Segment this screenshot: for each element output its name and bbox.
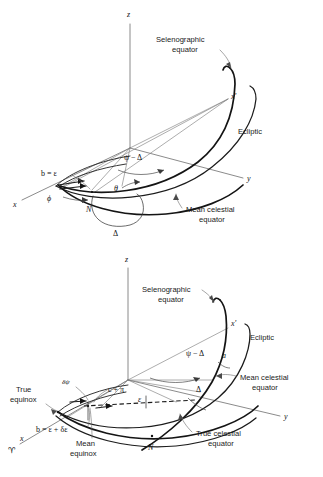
epsilon-arrowhead-bottom: [106, 403, 112, 409]
phi-label-top: ϕ: [47, 194, 51, 203]
delta-label-bottom: Δ: [196, 385, 201, 394]
x-prime-radius-bottom: [128, 328, 228, 380]
mean-celestial-equator-label-line1-bottom: Mean celestial: [240, 373, 289, 382]
psi-minus-delta-arrowhead-top: [157, 169, 164, 174]
b-epsilon-label-top: b = ε: [41, 169, 58, 178]
y-axis-label-top: y: [246, 174, 251, 183]
delta-brace-top: [92, 194, 144, 226]
aux-radius-1-top: [60, 148, 130, 188]
cone-edge-lower-top: [95, 99, 228, 192]
mean-celestial-equator-label-line2-bottom: equator: [252, 383, 278, 392]
theta-label-top: θ: [114, 184, 118, 193]
y-axis-label-bottom: y: [283, 412, 288, 421]
x-prime-radius-top: [130, 99, 228, 148]
mean-equinox-label-line2-bottom: equinox: [70, 449, 97, 458]
mean-equinox-label-line1-bottom: Mean: [76, 439, 95, 448]
selenographic-equator-label-line2-top: equator: [172, 45, 198, 54]
selenographic-equator-curve-bottom: [142, 300, 226, 450]
figure-top: z x y x': [0, 0, 323, 240]
mean-celestial-equator-label-line1-top: Mean celestial: [186, 205, 235, 214]
mean-celestial-equator-label-line2-top: equator: [199, 215, 225, 224]
psi-minus-delta-arrowhead-bottom: [193, 377, 200, 382]
b-epsilon-delta-label-bottom: b = ε + δε: [36, 425, 68, 434]
delta-label-top: Δ: [113, 229, 118, 238]
node-point-bottom: [151, 435, 153, 437]
true-celestial-equator-label-line1-bottom: True celestial: [196, 429, 241, 438]
node-point-top: [91, 191, 93, 193]
selenographic-equator-label-line1-top: Selenographic: [156, 35, 205, 44]
psi-minus-delta-label-top: ψ − Δ: [124, 153, 142, 162]
figure-sheet: z x y x': [0, 0, 323, 477]
true-celestial-equator-leader-arrow-bottom: [178, 414, 184, 420]
selenographic-equator-label-line2-bottom: equator: [158, 295, 184, 304]
aries-symbol-bottom: ♈: [8, 445, 16, 455]
theta-arrowhead-top: [134, 179, 140, 185]
selenographic-equator-hook-top: [223, 66, 230, 70]
mean-equinox-leader-bottom: [90, 408, 92, 438]
z-axis-label-bottom: z: [124, 255, 129, 264]
true-equinox-label-line2-bottom: equinox: [10, 395, 37, 404]
x-axis-label-top: x: [12, 200, 17, 209]
angle-a-label-bottom: a: [222, 351, 226, 360]
c-plus-pi-label-bottom: c + π: [108, 385, 124, 394]
b-epsilon-arrowhead2-top: [80, 183, 86, 189]
true-equinox-leader-arrow-bottom: [51, 409, 57, 415]
node-label-bottom: N: [147, 443, 154, 452]
z-axis-label-top: z: [126, 10, 131, 19]
true-celestial-equator-label-line2-bottom: equator: [208, 439, 234, 448]
ecliptic-label-bottom: Ecliptic: [250, 333, 274, 342]
node-label-top: N: [85, 205, 92, 214]
x-axis-label-bottom: x: [19, 434, 24, 443]
aux-radius-3-bottom: [128, 380, 176, 402]
delta-psi-label-bottom: δψ: [62, 378, 70, 385]
x-prime-label-bottom: x': [230, 319, 237, 328]
ecliptic-label-top: Ecliptic: [238, 127, 262, 136]
selenographic-equator-hook-bottom: [213, 298, 220, 302]
figure-bottom: z x ♈ y x': [0, 240, 323, 477]
true-equinox-label-line1-bottom: True: [16, 385, 31, 394]
ecliptic-curve-top: [56, 86, 256, 198]
mean-celestial-equator-leader-arrow-top: [173, 194, 179, 200]
y-axis-line-top: [130, 148, 243, 178]
psi-minus-delta-label-bottom: ψ − Δ: [186, 349, 204, 358]
selenographic-equator-label-line1-bottom: Selenographic: [142, 285, 191, 294]
